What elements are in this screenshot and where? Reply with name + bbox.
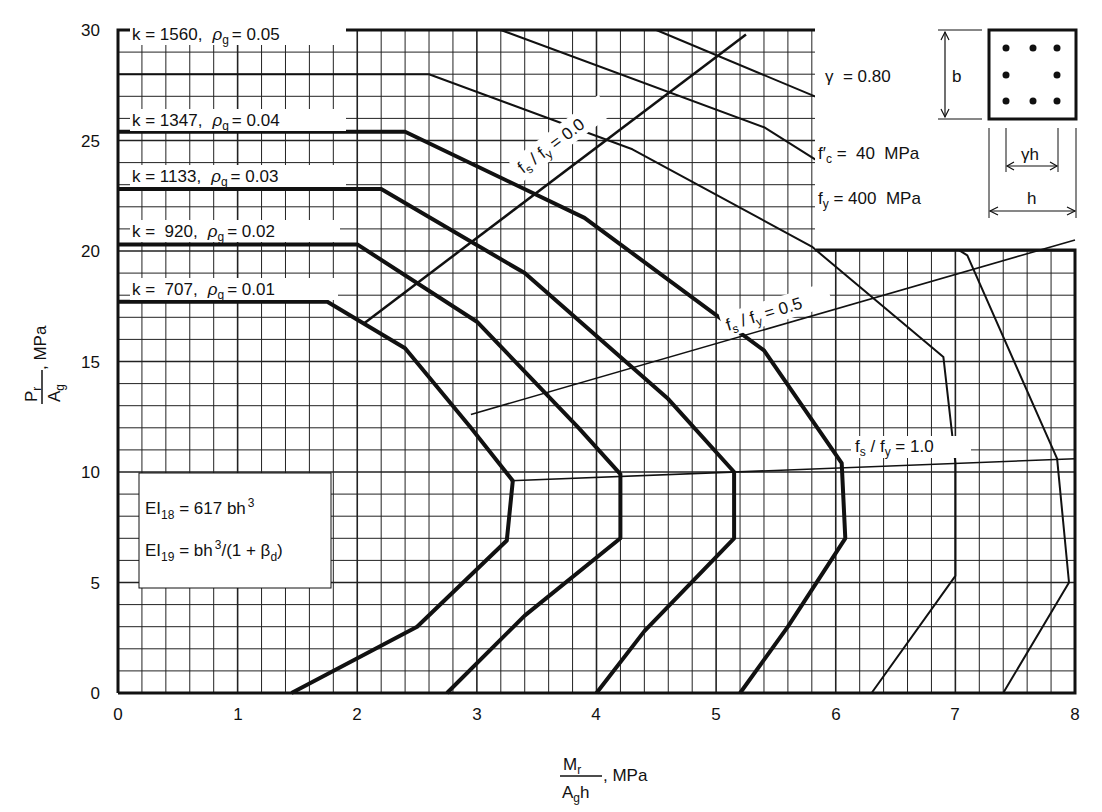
svg-text:Pr: Pr — [22, 387, 44, 402]
x-tick: 6 — [831, 705, 840, 724]
x-tick: 0 — [113, 705, 122, 724]
label-k1560: k = 1560,ρg= 0.05 — [130, 23, 346, 47]
h-label: h — [1027, 189, 1036, 208]
x-tick: 8 — [1070, 705, 1079, 724]
interaction-curves — [118, 132, 845, 693]
interaction-diagram-chart: 0 5 10 15 20 25 30 0 1 2 3 4 5 6 7 8 Pr … — [0, 0, 1102, 812]
interaction-curve-1 — [118, 244, 620, 693]
label-k1133: k = 1133,ρg= 0.03 — [130, 165, 346, 189]
params-box — [815, 24, 1102, 249]
strain-line-1 — [471, 240, 1075, 415]
y-tick: 25 — [81, 132, 100, 151]
svg-text:Agh: Agh — [562, 783, 590, 805]
x-tick: 4 — [591, 705, 600, 724]
x-axis-ticks: 0 1 2 3 4 5 6 7 8 — [113, 705, 1079, 724]
y-tick: 5 — [91, 574, 100, 593]
strain-line-2 — [510, 459, 1075, 481]
x-tick: 3 — [472, 705, 481, 724]
svg-text:, MPa: , MPa — [603, 766, 648, 785]
label-k1347: k = 1347,ρg= 0.04 — [130, 109, 346, 133]
svg-text:fs / fy = 1.0: fs / fy = 1.0 — [855, 437, 934, 459]
fy-value: fy = 400 MPa — [818, 189, 921, 211]
y-tick: 30 — [81, 21, 100, 40]
ei-box — [139, 473, 331, 588]
x-axis-label: Mr Agh , MPa — [560, 755, 648, 805]
x-tick: 5 — [711, 705, 720, 724]
label-k707: k = 707,ρg= 0.01 — [130, 278, 338, 302]
gamma-value: γ = 0.80 — [825, 67, 891, 86]
fs-fy-05-label: fs / fy = 0.5 — [719, 282, 833, 339]
fc-value: f′c = 40 MPa — [818, 144, 920, 166]
y-tick: 10 — [81, 463, 100, 482]
x-tick: 7 — [950, 705, 959, 724]
svg-text:fs / fy = 0.0: fs / fy = 0.0 — [514, 115, 590, 180]
interaction-curve-3 — [118, 132, 845, 693]
y-tick: 0 — [91, 684, 100, 703]
label-k920: k = 920,ρg= 0.02 — [130, 220, 340, 244]
b-label: b — [952, 67, 961, 86]
y-axis-label: Pr Ag , MPa — [22, 325, 67, 404]
svg-text:Mr: Mr — [563, 755, 581, 777]
y-tick: 20 — [81, 242, 100, 261]
y-tick: 15 — [81, 353, 100, 372]
x-tick: 1 — [233, 705, 242, 724]
x-tick: 2 — [352, 705, 361, 724]
fs-fy-10-label: fs / fy = 1.0 — [851, 436, 971, 459]
svg-text:Ag: Ag — [45, 384, 67, 402]
y-axis-ticks: 0 5 10 15 20 25 30 — [81, 21, 100, 703]
gamma-h-label: γh — [1021, 145, 1039, 164]
svg-text:, MPa: , MPa — [31, 325, 50, 370]
